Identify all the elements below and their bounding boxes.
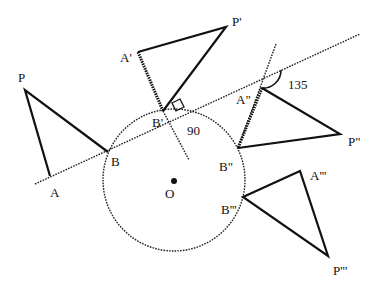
label-p1: P' — [232, 14, 242, 29]
label-b2: B" — [219, 159, 233, 174]
segment-a1b1 — [138, 52, 163, 111]
label-a3: A''' — [310, 168, 326, 183]
angle-arc-135 — [261, 70, 281, 88]
label-a: A — [50, 185, 60, 200]
reference-line — [35, 34, 360, 184]
triangle-p3a3b3 — [243, 171, 328, 256]
geometry-diagram: P A B P' A' B' 90 P" A" B" 135 P''' A'''… — [0, 0, 388, 281]
triangle-p1a1b1 — [138, 27, 226, 111]
label-angle-90: 90 — [187, 123, 200, 138]
label-p: P — [18, 70, 25, 85]
label-b1: B' — [152, 115, 163, 130]
center-point-o — [171, 178, 177, 184]
label-a2: A" — [236, 92, 251, 107]
triangle-pab — [25, 90, 108, 176]
label-a1: A' — [120, 50, 132, 65]
label-b: B — [111, 154, 120, 169]
label-p2: P" — [348, 134, 361, 149]
label-b3: B''' — [221, 202, 237, 217]
label-o: O — [165, 186, 174, 201]
triangle-p2a2b2 — [238, 88, 340, 148]
label-angle-135: 135 — [288, 77, 308, 92]
label-p3: P''' — [333, 263, 347, 278]
